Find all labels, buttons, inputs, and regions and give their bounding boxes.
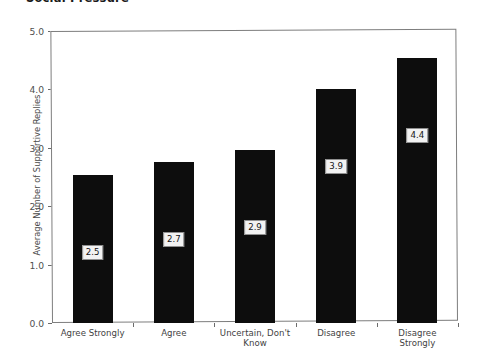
bar bbox=[397, 58, 437, 323]
bars-layer: 2.52.72.93.94.4 bbox=[52, 31, 458, 323]
x-category-label: Uncertain, Don't Know bbox=[220, 329, 290, 349]
x-tick-mark bbox=[296, 323, 297, 327]
x-category-label: Disagree Strongly bbox=[387, 329, 448, 349]
x-tick-mark bbox=[133, 323, 134, 327]
x-tick-mark bbox=[214, 323, 215, 327]
bar bbox=[316, 89, 356, 323]
x-tick-mark bbox=[377, 323, 378, 327]
x-category-label: Agree bbox=[161, 329, 186, 339]
x-tick-mark bbox=[458, 323, 459, 327]
bar bbox=[235, 150, 275, 323]
bar-value-label: 3.9 bbox=[325, 159, 347, 174]
bar-value-label: 2.9 bbox=[244, 220, 266, 235]
bar-chart-figure: Average Number of Supportive Replies 0.0… bbox=[0, 0, 478, 360]
bar-value-label: 4.4 bbox=[407, 128, 429, 143]
x-category-label: Agree Strongly bbox=[61, 329, 125, 339]
bar-value-label: 2.7 bbox=[163, 232, 185, 247]
bar-value-label: 2.5 bbox=[82, 245, 104, 260]
x-category-label: Disagree bbox=[317, 329, 355, 339]
